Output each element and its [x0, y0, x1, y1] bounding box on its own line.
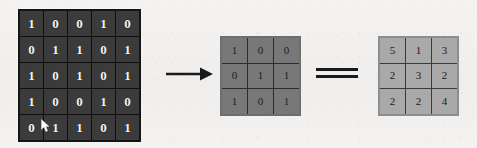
equals-bar-top: [316, 68, 358, 71]
input-cell: 1: [116, 115, 139, 140]
kernel-cell: 1: [222, 89, 247, 114]
input-cell: 0: [44, 89, 67, 114]
result-cell: 2: [406, 89, 431, 114]
input-cell: 0: [68, 89, 91, 114]
result-cell: 2: [432, 64, 457, 89]
input-cell: 1: [116, 37, 139, 62]
result-cell: 3: [432, 38, 457, 63]
kernel-cell: 0: [222, 64, 247, 89]
diagram-stage: 1 0 0 1 0 0 1 1 0 1 1 0 1 0 1 1 0 0 1 0 …: [0, 0, 477, 148]
input-cell: 0: [92, 63, 115, 88]
kernel-cell: 0: [248, 38, 273, 63]
kernel-cell: 0: [248, 89, 273, 114]
right-arrow-icon: [166, 64, 214, 84]
kernel-cell: 1: [248, 64, 273, 89]
kernel-cell: 1: [274, 89, 299, 114]
result-cell: 5: [380, 38, 405, 63]
input-cell: 0: [20, 115, 43, 140]
equals-bar-bottom: [316, 75, 358, 78]
kernel-cell: 0: [274, 38, 299, 63]
result-cell: 2: [380, 89, 405, 114]
kernel-cell: 1: [222, 38, 247, 63]
input-cell: 1: [116, 63, 139, 88]
input-cell: 0: [68, 11, 91, 36]
input-cell: 0: [116, 89, 139, 114]
input-matrix: 1 0 0 1 0 0 1 1 0 1 1 0 1 0 1 1 0 0 1 0 …: [18, 9, 141, 142]
input-cell: 1: [44, 115, 67, 140]
result-cell: 3: [406, 64, 431, 89]
input-cell: 0: [92, 115, 115, 140]
result-matrix: 5 1 3 2 3 2 2 2 4: [378, 36, 459, 116]
result-cell: 1: [406, 38, 431, 63]
input-cell: 0: [44, 63, 67, 88]
result-cell: 4: [432, 89, 457, 114]
input-cell: 1: [92, 11, 115, 36]
kernel-matrix: 1 0 0 0 1 1 1 0 1: [220, 36, 301, 116]
result-cell: 2: [380, 64, 405, 89]
input-cell: 1: [44, 37, 67, 62]
input-cell: 0: [92, 37, 115, 62]
input-cell: 0: [44, 11, 67, 36]
input-cell: 1: [20, 63, 43, 88]
input-cell: 1: [68, 115, 91, 140]
kernel-cell: 1: [274, 64, 299, 89]
equals-sign-icon: [316, 66, 358, 82]
input-cell: 1: [20, 11, 43, 36]
input-cell: 1: [68, 37, 91, 62]
input-cell: 1: [20, 89, 43, 114]
input-cell: 1: [92, 89, 115, 114]
input-cell: 1: [68, 63, 91, 88]
input-cell: 0: [116, 11, 139, 36]
input-cell: 0: [20, 37, 43, 62]
